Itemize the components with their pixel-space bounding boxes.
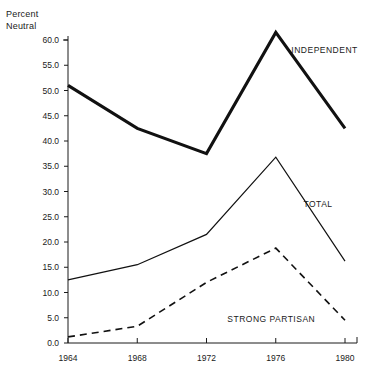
x-tick-label: 1964 bbox=[59, 353, 78, 363]
y-tick-label: 60.0 bbox=[42, 35, 59, 45]
y-tick-label: 30.0 bbox=[42, 187, 59, 197]
x-tick-label: 1976 bbox=[266, 353, 285, 363]
line-chart-plot: 0.05.010.015.020.025.030.035.040.045.050… bbox=[0, 0, 367, 378]
y-tick-label: 10.0 bbox=[42, 288, 59, 298]
x-axis-tick-labels: 19641968197219761980 bbox=[59, 353, 355, 363]
x-axis-tick-marks bbox=[68, 337, 357, 343]
y-axis-title-line-1: Percent bbox=[6, 9, 38, 20]
y-tick-label: 50.0 bbox=[42, 86, 59, 96]
series-label-independent: INDEPENDENT bbox=[291, 45, 357, 55]
y-tick-label: 25.0 bbox=[42, 212, 59, 222]
x-tick-label: 1980 bbox=[336, 353, 355, 363]
y-axis-tick-marks bbox=[63, 40, 68, 343]
y-tick-label: 35.0 bbox=[42, 161, 59, 171]
y-tick-label: 45.0 bbox=[42, 111, 59, 121]
y-axis-tick-labels: 0.05.010.015.020.025.030.035.040.045.050… bbox=[42, 35, 59, 348]
series-line-total bbox=[68, 157, 345, 280]
y-tick-label: 55.0 bbox=[42, 60, 59, 70]
y-tick-label: 40.0 bbox=[42, 136, 59, 146]
y-axis-title-line-2: Neutral bbox=[6, 21, 36, 32]
series-label-strong-partisan: STRONG PARTISAN bbox=[227, 314, 315, 324]
data-series-group bbox=[68, 32, 345, 337]
series-labels-group: INDEPENDENTTOTALSTRONG PARTISAN bbox=[227, 45, 357, 324]
chart-container: Percent Neutral 0.05.010.015.020.025.030… bbox=[0, 0, 367, 378]
y-tick-label: 5.0 bbox=[47, 313, 59, 323]
y-tick-label: 20.0 bbox=[42, 237, 59, 247]
x-tick-label: 1968 bbox=[128, 353, 147, 363]
series-label-total: TOTAL bbox=[303, 199, 332, 209]
x-tick-label: 1972 bbox=[197, 353, 216, 363]
y-tick-label: 0.0 bbox=[47, 338, 59, 348]
y-tick-label: 15.0 bbox=[42, 262, 59, 272]
